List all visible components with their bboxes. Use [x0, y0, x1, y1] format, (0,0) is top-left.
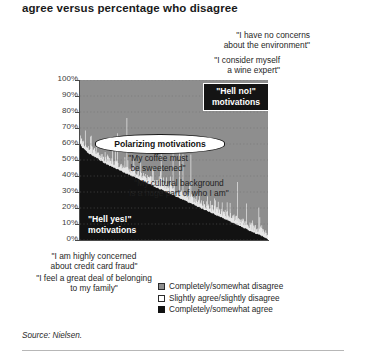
y-tick-label: 10%: [62, 218, 78, 228]
annotation-cultural: "My cultural background is a huge part o…: [104, 178, 254, 199]
x-axis-line: [79, 240, 269, 241]
y-tick-label: 80%: [62, 106, 78, 116]
legend-label-slightly: Slightly agree/slightly disagree: [169, 294, 280, 303]
annotation-environment: "I have no concerns about the environmen…: [186, 30, 310, 51]
y-tick-label: 30%: [62, 186, 78, 196]
y-tick-label: 0%: [66, 234, 78, 244]
y-tick-label: 50%: [62, 154, 78, 164]
annotation-wine-expert: "I consider myself a wine expert": [160, 55, 280, 76]
y-tick-label: 90%: [62, 90, 78, 100]
page-title: agree versus percentage who disagree: [22, 2, 238, 14]
legend-swatch-agree: [158, 306, 165, 313]
y-tick-label: 60%: [62, 138, 78, 148]
annotation-credit-card: "I am highly concerned about credit card…: [28, 251, 160, 272]
annotation-coffee: "My coffee must be sweetened": [110, 153, 206, 174]
footer-rule: [22, 350, 344, 351]
legend-item-agree: Completely/somewhat agree: [158, 304, 283, 316]
legend-swatch-disagree: [158, 283, 165, 290]
legend-label-disagree: Completely/somewhat disagree: [169, 282, 283, 291]
legend-label-agree: Completely/somewhat agree: [169, 305, 273, 314]
hell-no-label: "Hell no!" motivations: [203, 83, 269, 111]
y-tick-label: 70%: [62, 122, 78, 132]
source-note: Source: Nielsen.: [22, 331, 82, 340]
y-tick-label: 40%: [62, 170, 78, 180]
y-tick-label: 100%: [58, 74, 78, 84]
annotation-belonging: "I feel a great deal of belonging to my …: [14, 273, 174, 294]
legend-item-disagree: Completely/somewhat disagree: [158, 281, 283, 293]
polarizing-label: Polarizing motivations: [114, 139, 206, 149]
polarizing-callout: Polarizing motivations: [95, 134, 225, 154]
y-axis-labels: 100% 90% 80% 70% 60% 50% 40% 30% 20% 10%…: [44, 74, 78, 248]
hell-yes-label: "Hell yes!" motivations: [88, 214, 136, 236]
legend-swatch-slightly: [158, 295, 165, 302]
legend-item-slightly: Slightly agree/slightly disagree: [158, 293, 283, 305]
chart-legend: Completely/somewhat disagree Slightly ag…: [158, 281, 283, 316]
y-tick-label: 20%: [62, 202, 78, 212]
